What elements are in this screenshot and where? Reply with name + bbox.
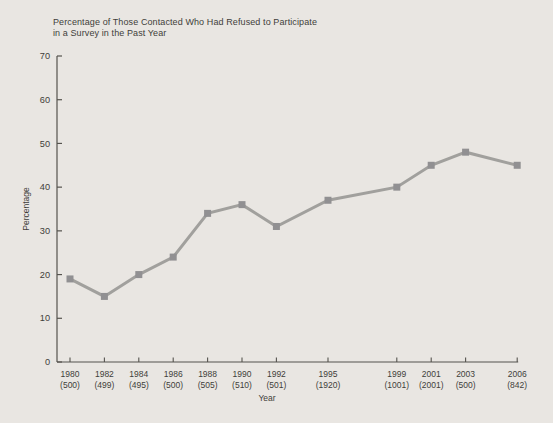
data-point-marker xyxy=(393,184,400,191)
x-tick-n-label: (842) xyxy=(507,380,527,390)
data-point-marker xyxy=(273,223,280,230)
x-tick-year-label: 1992 xyxy=(267,369,286,379)
x-tick-year-label: 1990 xyxy=(233,369,252,379)
x-tick-n-label: (1920) xyxy=(316,380,341,390)
data-point-marker xyxy=(514,162,521,169)
x-axis-label: Year xyxy=(258,393,275,403)
data-point-marker xyxy=(135,271,142,278)
y-tick-label: 60 xyxy=(40,95,50,105)
data-point-marker xyxy=(101,293,108,300)
data-point-marker xyxy=(67,275,74,282)
x-tick-n-label: (501) xyxy=(266,380,286,390)
x-tick-year-label: 1982 xyxy=(95,369,114,379)
x-tick-year-label: 2001 xyxy=(422,369,441,379)
x-tick-year-label: 2006 xyxy=(508,369,527,379)
data-point-marker xyxy=(239,201,246,208)
x-tick-n-label: (500) xyxy=(456,380,476,390)
x-tick-year-label: 1986 xyxy=(164,369,183,379)
x-tick-year-label: 1995 xyxy=(319,369,338,379)
y-tick-label: 10 xyxy=(40,313,50,323)
x-tick-n-label: (500) xyxy=(60,380,80,390)
x-tick-n-label: (1001) xyxy=(385,380,410,390)
x-tick-year-label: 1988 xyxy=(198,369,217,379)
y-tick-label: 40 xyxy=(40,182,50,192)
y-tick-label: 70 xyxy=(40,51,50,61)
data-point-marker xyxy=(325,197,332,204)
refusal-rate-line-chart-figure: Percentage of Those Contacted Who Had Re… xyxy=(0,0,553,423)
data-point-marker xyxy=(170,254,177,261)
data-point-marker xyxy=(204,210,211,217)
y-tick-label: 30 xyxy=(40,226,50,236)
x-tick-year-label: 1984 xyxy=(129,369,148,379)
x-tick-year-label: 1980 xyxy=(61,369,80,379)
line-chart-plot: 0102030405060701980(500)1982(499)1984(49… xyxy=(0,0,553,423)
x-tick-n-label: (2001) xyxy=(419,380,444,390)
x-tick-year-label: 2003 xyxy=(456,369,475,379)
y-tick-label: 20 xyxy=(40,270,50,280)
x-tick-n-label: (510) xyxy=(232,380,252,390)
x-tick-n-label: (499) xyxy=(94,380,114,390)
x-tick-n-label: (505) xyxy=(198,380,218,390)
x-tick-year-label: 1999 xyxy=(387,369,406,379)
y-tick-label: 0 xyxy=(45,357,50,367)
y-tick-label: 50 xyxy=(40,139,50,149)
x-tick-n-label: (495) xyxy=(129,380,149,390)
x-tick-n-label: (500) xyxy=(163,380,183,390)
data-point-marker xyxy=(462,149,469,156)
data-point-marker xyxy=(428,162,435,169)
